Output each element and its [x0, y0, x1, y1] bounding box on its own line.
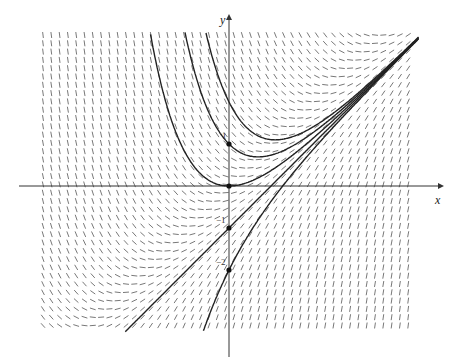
slope-segment — [341, 173, 343, 179]
slope-segment — [200, 57, 202, 63]
slope-segment — [109, 57, 110, 63]
slope-segment — [165, 282, 170, 286]
slope-segment — [157, 199, 161, 204]
slope-segment — [198, 191, 203, 194]
slope-segment — [281, 100, 286, 103]
slope-segment — [365, 132, 368, 137]
slope-segment — [289, 118, 295, 119]
slope-segment — [150, 74, 151, 80]
slope-segment — [291, 248, 293, 254]
slope-segment — [156, 242, 162, 244]
slope-segment — [374, 231, 375, 237]
slope-segment — [131, 266, 137, 268]
slope-segment — [107, 283, 112, 286]
tick-label-neg1: −1 — [216, 216, 226, 225]
slope-segment — [256, 142, 262, 144]
slope-segment — [258, 248, 260, 253]
slope-segment — [142, 157, 144, 163]
slope-segment — [241, 265, 243, 270]
slope-segment — [183, 124, 185, 130]
slope-segment — [299, 190, 302, 195]
slope-segment — [84, 157, 85, 163]
slope-segment — [315, 149, 319, 154]
slope-segment — [339, 92, 344, 95]
slope-segment — [166, 132, 168, 138]
slope-segment — [123, 275, 129, 277]
slope-segment — [59, 132, 60, 138]
slope-segment — [408, 298, 409, 304]
slope-segment — [314, 117, 319, 120]
slope-segment — [51, 32, 52, 38]
slope-segment — [117, 82, 118, 88]
slope-segment — [67, 65, 68, 71]
slope-segment — [308, 231, 310, 237]
slope-segment — [406, 58, 410, 63]
slope-segment — [333, 323, 334, 329]
slope-segment — [241, 49, 243, 55]
slope-segment — [266, 41, 268, 47]
slope-segment — [358, 231, 359, 237]
slope-segment — [91, 257, 94, 262]
slope-segment — [208, 124, 211, 129]
slope-segment — [408, 198, 409, 204]
slope-segment — [248, 116, 252, 120]
slope-segment — [117, 190, 119, 196]
slope-segment — [341, 264, 342, 270]
slope-segment — [42, 248, 44, 254]
slope-segment — [100, 190, 102, 196]
slope-segment — [125, 82, 126, 88]
slope-segment — [157, 224, 162, 227]
slope-segment — [325, 264, 326, 270]
slope-segment — [391, 323, 392, 329]
slope-segment — [175, 90, 177, 96]
slope-segment — [49, 307, 53, 312]
slope-segment — [67, 82, 68, 88]
slope-segment — [250, 289, 252, 295]
slope-segment — [366, 173, 368, 179]
slope-segment — [389, 42, 394, 45]
slope-segment — [190, 233, 196, 235]
slope-segment — [159, 32, 160, 38]
slope-segment — [241, 99, 244, 104]
slope-segment — [365, 140, 367, 145]
slope-segment — [125, 132, 127, 138]
slope-segment — [125, 74, 126, 80]
slope-segment — [51, 98, 52, 104]
slope-segment — [125, 140, 127, 146]
slope-segment — [241, 82, 244, 87]
slope-segment — [357, 107, 361, 112]
slope-segment — [383, 323, 384, 329]
slope-segment — [99, 274, 103, 278]
slope-segment — [107, 274, 112, 277]
slope-segment — [300, 273, 302, 279]
slope-segment — [101, 90, 102, 96]
slope-segment — [59, 165, 60, 171]
slope-segment — [291, 256, 293, 262]
slope-segment — [158, 148, 160, 154]
slope-segment — [241, 57, 243, 63]
slope-segment — [258, 306, 260, 312]
slope-segment — [174, 199, 178, 203]
slope-segment — [391, 140, 393, 146]
slope-segment — [73, 325, 79, 327]
slope-segment — [67, 265, 70, 270]
slope-segment — [307, 207, 309, 213]
slope-segment — [158, 99, 160, 105]
slope-segment — [349, 215, 351, 221]
slope-segment — [257, 107, 261, 111]
slope-segment — [84, 98, 85, 104]
slope-segment — [380, 43, 386, 45]
slope-segment — [408, 273, 409, 279]
initial-point-1 — [226, 183, 231, 188]
slope-segment — [109, 32, 110, 38]
slope-segment — [134, 74, 135, 80]
slope-segment — [100, 157, 102, 163]
slope-segment — [67, 49, 68, 55]
slope-segment — [207, 140, 210, 145]
slope-segment — [383, 198, 384, 204]
slope-segment — [300, 323, 301, 329]
slope-segment — [258, 323, 259, 329]
slope-segment — [42, 140, 43, 146]
slope-segment — [43, 57, 44, 63]
slope-segment — [175, 82, 177, 88]
